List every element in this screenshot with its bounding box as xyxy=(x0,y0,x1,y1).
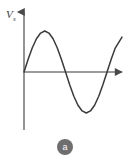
caption-row: a xyxy=(0,132,130,162)
caption-badge: a xyxy=(57,139,73,155)
plot-area: V s xyxy=(0,0,130,132)
waveform-figure: V s a xyxy=(0,0,130,162)
waveform-plot-svg: V s xyxy=(0,0,130,132)
y-axis-label-subscript: s xyxy=(13,15,16,23)
